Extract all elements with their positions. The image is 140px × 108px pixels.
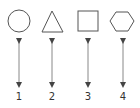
hexagon-shape xyxy=(110,12,134,31)
circle-shape xyxy=(8,10,30,32)
label-2: 2 xyxy=(46,91,58,103)
square-shape xyxy=(78,11,98,31)
triangle-shape xyxy=(42,11,63,32)
label-1: 1 xyxy=(13,91,25,103)
double-arrows xyxy=(19,41,123,85)
label-4: 4 xyxy=(117,91,129,103)
label-3: 3 xyxy=(82,91,94,103)
